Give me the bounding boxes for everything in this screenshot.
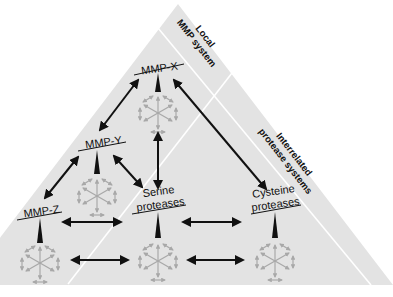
diagram-canvas: Local MMP system Interrelated protease s… (0, 0, 393, 297)
protease-triangle-diagram: Local MMP system Interrelated protease s… (0, 0, 393, 297)
